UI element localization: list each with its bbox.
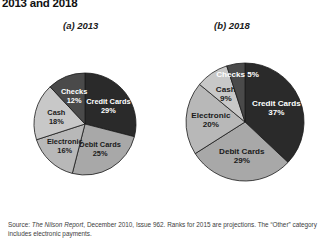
page-title: 2013 and 2018: [2, 0, 77, 9]
source-publication: The Nilson Report: [32, 221, 84, 228]
pie-chart-2018: Credit Cards37%Debit Cards29%Electronic2…: [185, 62, 305, 182]
pie-chart-2013: Credit Cards29%Debit Cards25%Electronic1…: [33, 72, 137, 176]
pie-slice-label: Cash18%: [47, 108, 66, 126]
chart-caption-2013: (a) 2013: [63, 20, 98, 31]
chart-caption-2018: (b) 2018: [214, 20, 250, 31]
source-prefix: Source:: [8, 221, 32, 228]
pie-svg-2018: Credit Cards37%Debit Cards29%Electronic2…: [185, 62, 305, 182]
pie-slice-label: Checks 5%: [216, 71, 259, 80]
source-note: Source: The Nilson Report, December 2010…: [8, 220, 324, 238]
pie-svg-2013: Credit Cards29%Debit Cards25%Electronic1…: [33, 72, 137, 176]
